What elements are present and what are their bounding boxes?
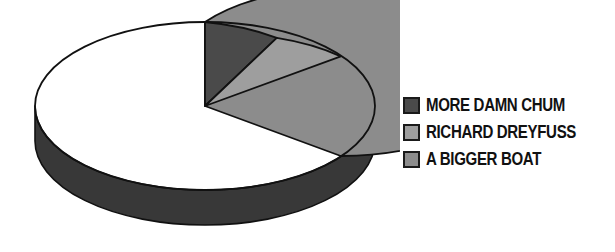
pie-chart-page: MORE DAMN CHUM RICHARD DREYFUSS A BIGGER…: [0, 0, 615, 252]
legend-item-a-bigger-boat[interactable]: A BIGGER BOAT: [403, 146, 613, 173]
legend-label-more-damn-chum: MORE DAMN CHUM: [426, 97, 565, 114]
legend-swatch-a-bigger-boat: [403, 151, 420, 168]
legend-label-richard-dreyfuss: RICHARD DREYFUSS: [426, 124, 576, 141]
legend-item-richard-dreyfuss[interactable]: RICHARD DREYFUSS: [403, 119, 613, 146]
legend-swatch-richard-dreyfuss: [403, 124, 420, 141]
legend-swatch-more-damn-chum: [403, 97, 420, 114]
legend-item-more-damn-chum[interactable]: MORE DAMN CHUM: [403, 92, 613, 119]
legend-label-a-bigger-boat: A BIGGER BOAT: [426, 151, 541, 168]
pie-chart-figure: [0, 0, 400, 252]
chart-legend: MORE DAMN CHUM RICHARD DREYFUSS A BIGGER…: [403, 92, 613, 173]
